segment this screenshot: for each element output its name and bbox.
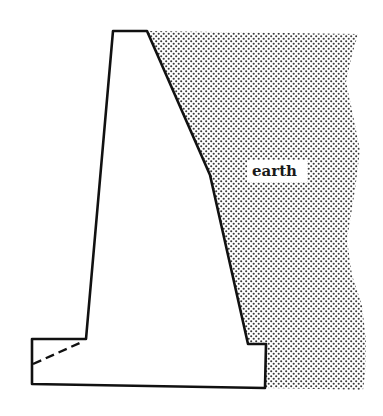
retaining-wall-diagram: earth bbox=[0, 0, 383, 416]
earth-label: earth bbox=[252, 162, 297, 180]
